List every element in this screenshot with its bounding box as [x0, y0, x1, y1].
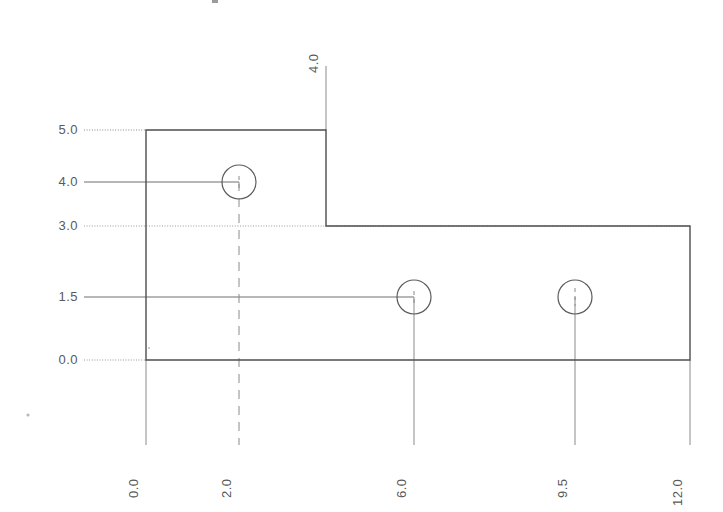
top-dimension-label-4-0: 4.0: [307, 53, 320, 73]
x-tick-label-9-5: 9.5: [556, 478, 569, 498]
scan-speck-left-icon: [26, 413, 29, 416]
holes-group: [222, 165, 592, 314]
x-tick-label-0-0: 0.0: [127, 478, 140, 498]
y-tick-label-5-0: 5.0: [26, 123, 78, 136]
y-tick-label-4-0: 4.0: [26, 175, 78, 188]
engineering-drawing-canvas: 5.0 4.0 3.0 1.5 0.0 0.0 2.0 6.0 9.5 12.0…: [0, 0, 723, 512]
y-tick-label-0-0: 0.0: [26, 353, 78, 366]
x-tick-label-12-0: 12.0: [671, 479, 684, 506]
x-tick-label-2-0: 2.0: [220, 478, 233, 498]
scan-speck-top-icon: [212, 0, 218, 3]
y-tick-label-3-0: 3.0: [26, 219, 78, 232]
y-dimension-lines: [84, 130, 690, 360]
scan-speck-inner-icon: [148, 347, 150, 349]
drawing-svg: [0, 0, 723, 512]
part-outline-polygon: [146, 130, 690, 360]
x-tick-label-6-0: 6.0: [395, 478, 408, 498]
y-tick-label-1-5: 1.5: [26, 290, 78, 303]
